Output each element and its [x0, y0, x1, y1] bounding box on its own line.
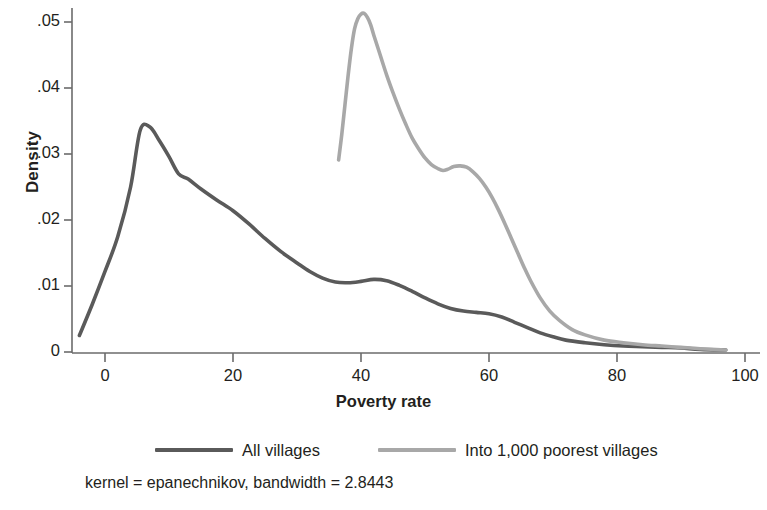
x-tick-label: 0 — [75, 366, 135, 385]
chart-footnote: kernel = epanechnikov, bandwidth = 2.844… — [85, 474, 393, 492]
series-lines — [79, 13, 725, 350]
legend-item-label: All villages — [242, 441, 320, 460]
x-tick-label: 60 — [459, 366, 519, 385]
y-tick-label: 0 — [14, 341, 60, 360]
density-plot-figure: 0 .01 .02 .03 .04 .05 Density 0 20 40 60… — [0, 0, 767, 510]
x-tick-label: 80 — [587, 366, 647, 385]
chart-legend: All villages Into 1,000 poorest villages — [0, 437, 767, 463]
y-tick-marks — [64, 22, 72, 352]
legend-item-label: Into 1,000 poorest villages — [465, 441, 658, 460]
y-tick-label: .01 — [14, 275, 60, 294]
x-axis-title: Poverty rate — [0, 392, 767, 411]
x-tick-marks — [105, 353, 745, 362]
x-tick-label: 40 — [331, 366, 391, 385]
y-tick-label: .05 — [14, 11, 60, 30]
axis-lines — [72, 8, 760, 353]
x-tick-label: 20 — [203, 366, 263, 385]
y-tick-label: .04 — [14, 77, 60, 96]
y-axis-title: Density — [23, 107, 43, 217]
series-line-poorest-villages — [339, 13, 726, 350]
legend-item-all-villages: All villages — [155, 437, 320, 463]
chart-canvas — [0, 0, 767, 510]
x-tick-label: 100 — [715, 366, 767, 385]
legend-item-poorest-villages: Into 1,000 poorest villages — [378, 437, 658, 463]
legend-color-swatch — [378, 448, 456, 452]
legend-color-swatch — [155, 448, 233, 452]
series-line-all-villages — [79, 124, 725, 350]
